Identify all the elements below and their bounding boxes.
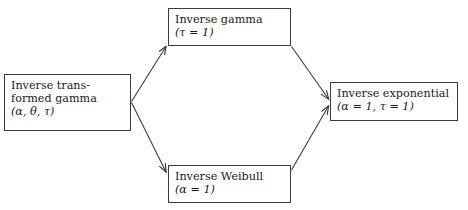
node-inverse-transformed-gamma: Inverse trans- formed gamma (α, θ, τ) xyxy=(4,74,131,131)
node-inverse-gamma: Inverse gamma (τ = 1) xyxy=(168,8,291,46)
node-label-line-1: Inverse gamma xyxy=(175,13,284,26)
edge-iw-to-ie xyxy=(292,106,329,170)
node-label-line-1: Inverse trans- xyxy=(11,79,124,92)
node-label-line-2: formed gamma xyxy=(11,92,124,105)
node-label-line-1: Inverse Weibull xyxy=(175,170,284,183)
edge-itg-to-ig xyxy=(132,47,167,102)
edge-itg-to-iw xyxy=(132,103,167,173)
diagram-canvas: Inverse trans- formed gamma (α, θ, τ) In… xyxy=(0,0,468,210)
node-inverse-exponential: Inverse exponential (α = 1, τ = 1) xyxy=(330,82,458,121)
node-label-line-1: Inverse exponential xyxy=(337,87,451,100)
node-params: (τ = 1) xyxy=(175,26,284,39)
node-params: (α = 1, τ = 1) xyxy=(337,100,451,113)
node-params: (α, θ, τ) xyxy=(11,105,124,118)
node-inverse-weibull: Inverse Weibull (α = 1) xyxy=(168,165,291,203)
edge-ig-to-ie xyxy=(292,47,329,100)
node-params: (α = 1) xyxy=(175,183,284,196)
